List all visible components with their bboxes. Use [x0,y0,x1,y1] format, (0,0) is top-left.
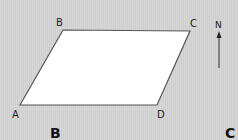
north-arrow-icon [217,31,222,68]
panel-label-c: C [225,125,235,140]
parallelogram-abcd [20,30,190,105]
vertex-label-a: A [12,109,19,120]
diagram-canvas: B C A D N B C [0,0,238,140]
vertex-label-b: B [56,17,63,28]
panel-label-b: B [50,125,61,140]
vertex-label-c: C [190,18,197,29]
vertex-label-d: D [157,109,165,120]
north-label: N [215,20,222,30]
parallelogram-diagram: B C A D N B C [0,0,238,140]
